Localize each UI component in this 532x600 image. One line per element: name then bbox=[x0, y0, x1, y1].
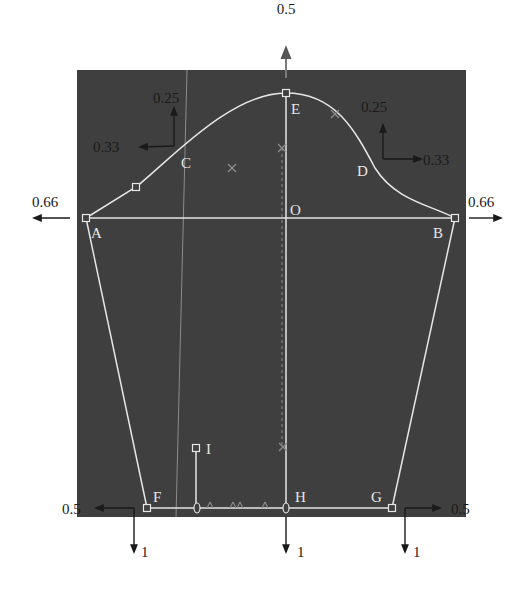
point-label-g: G bbox=[371, 489, 382, 505]
point-marker-a bbox=[83, 215, 90, 222]
point-label-b: B bbox=[433, 225, 443, 241]
point-label-h: H bbox=[295, 489, 306, 505]
left-curve-marker bbox=[133, 184, 140, 191]
point-marker-i bbox=[193, 445, 200, 452]
displacement-label-h-down: 1 bbox=[297, 544, 305, 560]
point-label-d: D bbox=[357, 163, 368, 179]
displacement-label-c-up: 0.25 bbox=[153, 90, 179, 106]
displacement-label-a-left: 0.66 bbox=[32, 194, 59, 210]
point-marker-g bbox=[389, 505, 396, 512]
hem-notch-oval bbox=[283, 503, 289, 513]
point-label-e: E bbox=[291, 101, 300, 117]
displacement-label-c-left: 0.33 bbox=[93, 139, 119, 155]
sleeve-pattern-diagram: ABECDOFGHI 0.50.250.330.250.330.660.660.… bbox=[0, 0, 532, 600]
displacement-label-f-down: 1 bbox=[141, 544, 149, 560]
hem-notch-oval bbox=[194, 503, 200, 513]
point-label-i: I bbox=[206, 441, 211, 457]
displacement-label-f-left: 0.5 bbox=[62, 501, 81, 517]
point-label-a: A bbox=[91, 225, 102, 241]
displacement-label-g-right: 0.5 bbox=[451, 501, 470, 517]
displacement-label-d-right: 0.33 bbox=[423, 152, 449, 168]
point-label-o: O bbox=[290, 202, 301, 218]
arrow-c-left-icon bbox=[140, 146, 174, 147]
displacement-label-g-down: 1 bbox=[413, 544, 421, 560]
point-label-c: C bbox=[181, 155, 191, 171]
point-marker-f bbox=[144, 505, 151, 512]
point-label-f: F bbox=[153, 489, 161, 505]
displacement-label-d-up: 0.25 bbox=[361, 99, 387, 115]
point-marker-e bbox=[283, 90, 290, 97]
displacement-label-b-right: 0.66 bbox=[468, 194, 495, 210]
point-marker-b bbox=[452, 215, 459, 222]
displacement-label-top-up: 0.5 bbox=[277, 1, 296, 17]
